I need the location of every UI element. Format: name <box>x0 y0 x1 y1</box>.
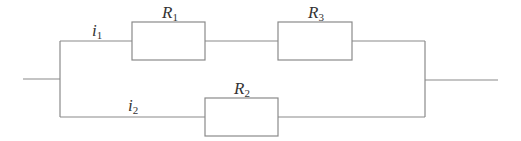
label-r3: R3 <box>307 3 324 23</box>
resistor-r3 <box>278 22 352 60</box>
label-i1: i1 <box>92 21 102 41</box>
circuit-diagram: R1 R3 R2 i1 i2 <box>0 0 521 141</box>
resistor-r2 <box>205 98 278 136</box>
resistor-r1 <box>132 22 205 60</box>
label-r2: R2 <box>233 79 250 99</box>
label-i2: i2 <box>128 96 138 116</box>
label-r1: R1 <box>161 3 178 23</box>
